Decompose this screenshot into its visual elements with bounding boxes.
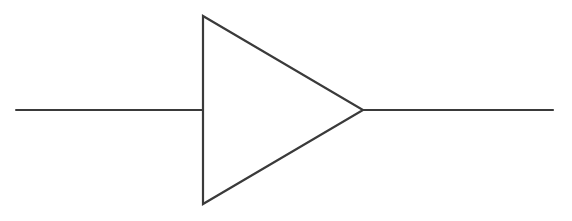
amplifier-triangle-icon xyxy=(203,16,363,204)
diagram-canvas xyxy=(0,0,572,221)
amplifier-diagram xyxy=(0,0,572,221)
